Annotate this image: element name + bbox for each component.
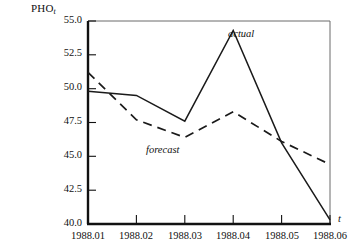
- x-axis-variable-label: t: [338, 213, 341, 224]
- series-line-actual: [88, 30, 330, 219]
- y-tick-label: 42.5: [20, 183, 82, 194]
- y-axis-title-main: PHO: [31, 2, 54, 14]
- x-tick-label: 1988.06: [298, 230, 359, 241]
- y-tick-label: 45.0: [20, 149, 82, 160]
- plot-frame: [87, 21, 331, 224]
- annotation-actual: actual: [228, 28, 254, 39]
- y-tick-label: 47.5: [20, 115, 82, 126]
- y-tick-label: 52.5: [20, 47, 82, 58]
- x-axis-ticks: [88, 215, 330, 224]
- y-tick-label: 50.0: [20, 81, 82, 92]
- series-line-forecast: [88, 72, 330, 164]
- chart-figure: PHOt 55.0 52.5 50.0 47.5 45.0 42.5 40.0 …: [0, 0, 359, 249]
- y-tick-label: 40.0: [20, 217, 82, 228]
- annotation-forecast: forecast: [146, 144, 179, 155]
- y-tick-label: 55.0: [20, 14, 82, 25]
